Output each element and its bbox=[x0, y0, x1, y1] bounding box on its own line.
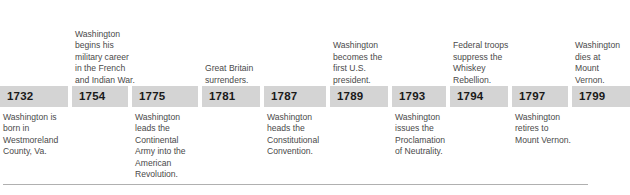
year-label: 1789 bbox=[337, 89, 363, 104]
year-chip: 1787 bbox=[264, 86, 326, 107]
event-caption-below: Washington is born in Westmoreland Count… bbox=[3, 112, 58, 158]
year-chip: 1794 bbox=[450, 86, 508, 107]
year-chip: 1781 bbox=[202, 86, 260, 107]
year-label: 1787 bbox=[271, 89, 297, 104]
year-label: 1775 bbox=[139, 89, 165, 104]
event-caption-above: Washington begins his military career in… bbox=[75, 29, 135, 86]
year-label: 1793 bbox=[399, 89, 425, 104]
event-caption-below: Washington leads the Continental Army in… bbox=[135, 112, 186, 181]
bottom-divider-rule bbox=[3, 184, 588, 185]
year-chip: 1797 bbox=[512, 86, 568, 107]
year-label: 1781 bbox=[209, 89, 235, 104]
year-chip: 1775 bbox=[132, 86, 198, 107]
year-chip: 1793 bbox=[392, 86, 446, 107]
year-label: 1754 bbox=[79, 89, 105, 104]
year-label: 1732 bbox=[7, 89, 33, 104]
event-caption-below: Washington retires to Mount Vernon. bbox=[515, 112, 571, 146]
year-chip: 1732 bbox=[0, 86, 68, 107]
year-chip: 1799 bbox=[572, 86, 630, 107]
event-caption-below: Washington issues the Proclamation of Ne… bbox=[395, 112, 445, 158]
event-caption-above: Washington becomes the first U.S. presid… bbox=[333, 40, 382, 86]
event-caption-above: Washington dies at Mount Vernon. bbox=[575, 40, 620, 86]
year-label: 1794 bbox=[457, 89, 483, 104]
year-chip: 1789 bbox=[330, 86, 388, 107]
event-caption-above: Great Britain surrenders. bbox=[205, 63, 253, 86]
year-label: 1797 bbox=[519, 89, 545, 104]
event-caption-above: Federal troops suppress the Whiskey Rebe… bbox=[453, 40, 508, 86]
event-caption-below: Washington heads the Constitutional Conv… bbox=[267, 112, 319, 158]
year-chip: 1754 bbox=[72, 86, 128, 107]
year-label: 1799 bbox=[579, 89, 605, 104]
